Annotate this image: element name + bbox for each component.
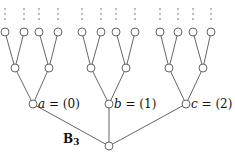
continuation-dot (177, 13, 179, 15)
continuation-dot (210, 18, 212, 20)
level2-node (11, 64, 19, 72)
continuation-dot (134, 8, 136, 10)
continuation-dot (57, 13, 59, 15)
root-node (105, 142, 113, 150)
leaf-node (1, 28, 9, 36)
edge-level1-to-level2 (169, 68, 186, 104)
edge-level2-to-level3 (116, 32, 126, 68)
level1-node (182, 100, 190, 108)
leaf-node (20, 28, 28, 36)
level2-node (165, 64, 173, 72)
edge-level2-to-level3 (5, 32, 15, 68)
edge-level2-to-level3 (49, 32, 58, 68)
leaf-node (131, 28, 139, 36)
level2-node (87, 64, 95, 72)
leaf-node (78, 28, 86, 36)
continuation-dot (100, 13, 102, 15)
continuation-dots (4, 8, 212, 20)
edge-level2-to-level3 (160, 32, 169, 68)
continuation-dot (81, 13, 83, 15)
tree-nodes (1, 28, 215, 150)
continuation-dot (115, 18, 117, 20)
continuation-dot (81, 18, 83, 20)
leaf-node (112, 28, 120, 36)
continuation-dot (23, 18, 25, 20)
continuation-dot (4, 18, 6, 20)
edge-level2-to-level3 (126, 32, 135, 68)
continuation-dot (4, 13, 6, 15)
edge-level2-to-level3 (91, 32, 101, 68)
node-labels: a = (0)b = (1)c = (2) (38, 97, 232, 111)
leaf-node (54, 28, 62, 36)
edge-level2-to-level3 (82, 32, 91, 68)
level2-node (122, 64, 130, 72)
continuation-dot (38, 18, 40, 20)
edge-level2-to-level3 (169, 32, 178, 68)
continuation-dot (192, 13, 194, 15)
continuation-dot (134, 18, 136, 20)
edge-level1-to-level2 (15, 68, 33, 104)
continuation-dot (115, 8, 117, 10)
node-label: b = (1) (114, 97, 156, 111)
continuation-dot (210, 13, 212, 15)
continuation-dot (4, 8, 6, 10)
continuation-dot (23, 13, 25, 15)
node-label: a = (0) (38, 97, 80, 111)
continuation-dot (159, 18, 161, 20)
continuation-dot (81, 8, 83, 10)
continuation-dot (159, 13, 161, 15)
leaf-node (35, 28, 43, 36)
tree-title-label: B3 (63, 132, 79, 147)
continuation-dot (38, 8, 40, 10)
continuation-dot (210, 8, 212, 10)
leaf-node (97, 28, 105, 36)
edge-level2-to-level3 (15, 32, 24, 68)
continuation-dot (159, 8, 161, 10)
edge-level2-to-level3 (193, 32, 203, 68)
continuation-dot (100, 18, 102, 20)
continuation-dot (115, 13, 117, 15)
tree-diagram: a = (0)b = (1)c = (2) B3 (0, 0, 235, 152)
continuation-dot (192, 18, 194, 20)
edge-level2-to-level3 (203, 32, 211, 68)
leaf-node (156, 28, 164, 36)
edge-level1-to-level2 (91, 68, 109, 104)
level2-node (199, 64, 207, 72)
continuation-dot (57, 18, 59, 20)
continuation-dot (38, 13, 40, 15)
continuation-dot (177, 8, 179, 10)
leaf-node (189, 28, 197, 36)
continuation-dot (192, 8, 194, 10)
edge-level2-to-level3 (39, 32, 49, 68)
leaf-node (207, 28, 215, 36)
node-label: c = (2) (191, 97, 232, 111)
continuation-dot (134, 13, 136, 15)
continuation-dot (177, 18, 179, 20)
leaf-node (174, 28, 182, 36)
continuation-dot (57, 8, 59, 10)
tree-edges (5, 32, 211, 146)
continuation-dot (100, 8, 102, 10)
level1-node (105, 100, 113, 108)
level2-node (45, 64, 53, 72)
level1-node (29, 100, 37, 108)
continuation-dot (23, 8, 25, 10)
